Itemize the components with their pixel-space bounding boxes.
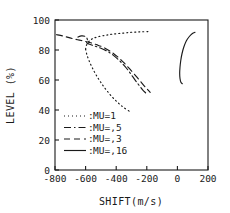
y-tick-label: 20 bbox=[39, 135, 51, 146]
y-tick-label: 100 bbox=[33, 15, 50, 26]
y-tick-label: 60 bbox=[39, 75, 51, 86]
figure-canvas: -800-600-400-2000200 020406080100 :MU=1:… bbox=[0, 0, 230, 213]
x-tick-label: -200 bbox=[135, 173, 158, 184]
legend-label-mu3: MU=,3 bbox=[93, 133, 122, 144]
y-axis-label: LEVEL (%) bbox=[5, 66, 16, 124]
legend-label-mu5: MU=,5 bbox=[93, 122, 122, 133]
x-tick-label: -400 bbox=[105, 173, 128, 184]
y-tick-label: 40 bbox=[39, 105, 51, 116]
y-tick-label: 80 bbox=[39, 45, 51, 56]
x-axis-label: SHIFT(m/s) bbox=[99, 196, 163, 207]
legend-label-mu1: MU=1 bbox=[93, 110, 116, 121]
x-tick-label: 0 bbox=[175, 173, 181, 184]
y-tick-label: 0 bbox=[44, 165, 50, 176]
x-tick-label: 200 bbox=[199, 173, 216, 184]
x-tick-label: -600 bbox=[74, 173, 97, 184]
legend-label-mu16: MU=,16 bbox=[93, 145, 128, 156]
